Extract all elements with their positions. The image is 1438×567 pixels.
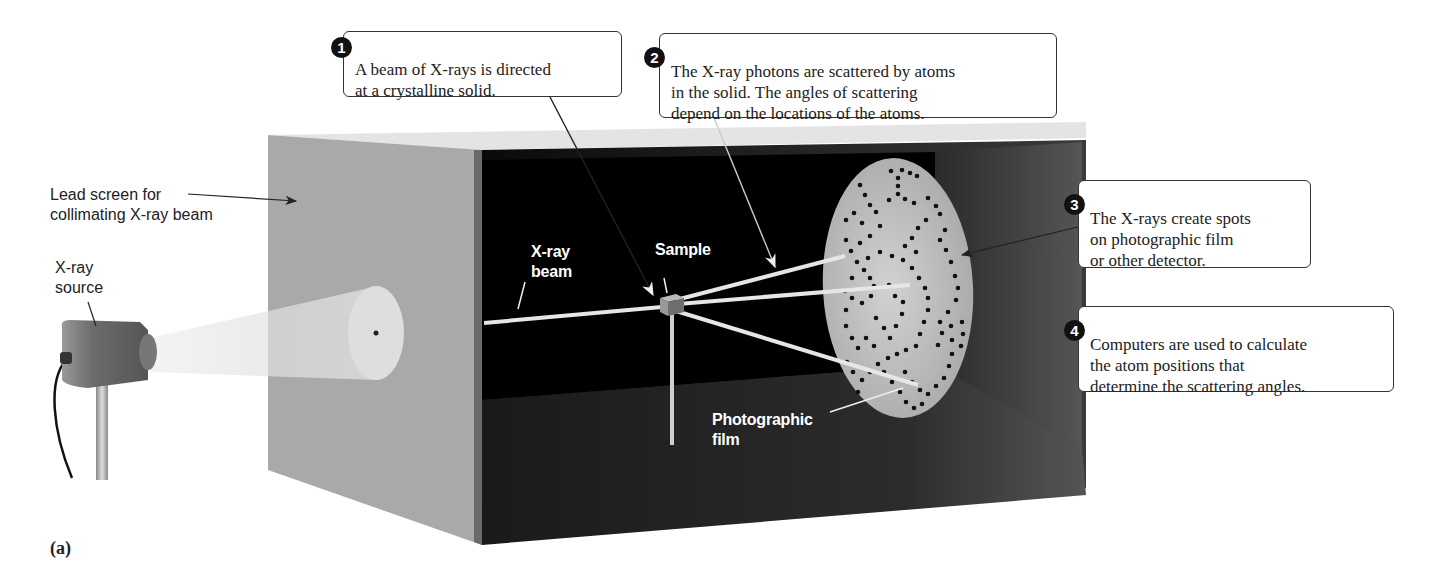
step-4-badge: 4	[1064, 320, 1085, 341]
callout-1-text: A beam of X-rays is directed at a crysta…	[355, 60, 551, 100]
step-3-badge: 3	[1064, 194, 1085, 215]
callout-4-text: Computers are used to calculate the atom…	[1090, 335, 1307, 396]
callout-1: A beam of X-rays is directed at a crysta…	[343, 31, 622, 97]
photographic-film-label: Photographic film	[712, 410, 813, 450]
step-2-badge: 2	[644, 47, 665, 68]
xray-diffraction-diagram: Lead screen for collimating X-ray beam X…	[0, 0, 1438, 567]
xray-source-body	[62, 320, 148, 388]
lead-screen-label: Lead screen for collimating X-ray beam	[50, 185, 213, 225]
step-1-badge: 1	[331, 37, 352, 58]
callout-4: Computers are used to calculate the atom…	[1078, 306, 1394, 392]
xray-source-label: X-ray source	[55, 258, 103, 298]
callout-2-text: The X-ray photons are scattered by atoms…	[671, 62, 955, 123]
sample-label: Sample	[655, 240, 711, 260]
panel-label: (a)	[50, 538, 71, 559]
sample-crystal	[660, 294, 684, 316]
xray-beam-label: X-ray beam	[531, 242, 572, 282]
callout-3-text: The X-rays create spots on photographic …	[1090, 209, 1251, 270]
callout-3: The X-rays create spots on photographic …	[1078, 180, 1311, 268]
callout-2: The X-ray photons are scattered by atoms…	[659, 33, 1057, 118]
source-stand-pole	[96, 385, 108, 480]
